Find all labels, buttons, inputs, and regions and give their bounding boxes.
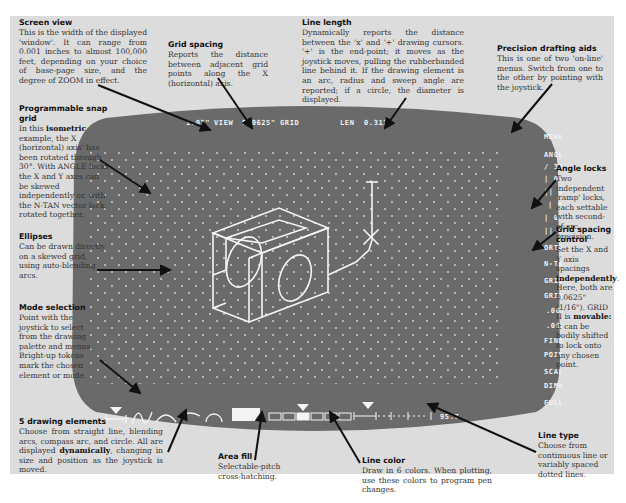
annotation-title: Screen view — [19, 18, 147, 28]
annotation-title: Area fill — [218, 452, 284, 462]
annotation-line-color: Line color Draw in 6 colors. When plotti… — [362, 456, 492, 495]
annotation-title: Grid spacing — [168, 40, 268, 50]
annotation-body: Draw in 6 colors. When plotting, use the… — [362, 466, 492, 495]
annotation-screen-view: Screen view This is the width of the dis… — [19, 18, 147, 86]
annotation-title: Grid spacing control — [556, 225, 614, 245]
annotation-body: Can be drawn directly on a skewed grid, … — [19, 242, 105, 280]
annotation-title: Line type — [538, 431, 608, 441]
annotation-body: Reports the distance between adjacent gr… — [168, 50, 268, 88]
view-width-readout: 1.03" — [186, 119, 210, 127]
annotation-snap-grid: Programmable snap grid In this isometric… — [19, 104, 109, 220]
annotation-area-fill: Area fill Selectable-pitch cross-hatchin… — [218, 452, 284, 481]
menu-item-angle[interactable]: ANGLE — [544, 151, 562, 159]
annotation-body: This is the width of the displayed 'wind… — [19, 28, 147, 86]
line-length-readout: 0.313" — [364, 119, 393, 127]
annotation-drawing-elements: 5 drawing elements Choose from straight … — [19, 417, 163, 475]
annotation-title: Line color — [362, 456, 492, 466]
crt-screen: 1.03" VIEW 0.0625" GRID LEN 0.313" MENU … — [66, 100, 562, 440]
screen-canvas: 1.03" VIEW 0.0625" GRID LEN 0.313" MENU … — [66, 100, 562, 440]
view-label: VIEW — [214, 119, 233, 127]
annotation-body: In this isometric example, the X (horizo… — [19, 124, 109, 220]
annotation-title: Line length — [302, 18, 464, 28]
annotation-title: 5 drawing elements — [19, 417, 163, 427]
annotation-body: This is one of two 'on-line' menus. Swit… — [497, 54, 603, 92]
annotation-title: Programmable snap grid — [19, 104, 109, 124]
annotation-body: Choose from continuous line or variably … — [538, 441, 608, 479]
annotation-grid-spacing-control: Grid spacing control Set the X and Y axi… — [556, 225, 614, 370]
annotation-ellipses: Ellipses Can be drawn directly on a skew… — [19, 232, 105, 280]
annotation-precision-aids: Precision drafting aids This is one of t… — [497, 44, 603, 92]
annotation-line-length: Line length Dynamically reports the dist… — [302, 18, 464, 105]
area-fill-tool[interactable] — [232, 408, 260, 421]
annotation-title: Mode selection — [19, 303, 95, 313]
grid-spacing-readout: 0.0625" — [242, 119, 276, 127]
annotation-title: Ellipses — [19, 232, 105, 242]
line-type-value: 95.7 — [440, 413, 459, 421]
annotation-title: Angle locks — [556, 164, 614, 174]
annotation-body: Selectable-pitch cross-hatching. — [218, 462, 284, 481]
menu-item-dimn[interactable]: DIMN — [544, 382, 562, 390]
annotation-grid-spacing: Grid spacing Reports the distance betwee… — [168, 40, 268, 88]
len-label: LEN — [340, 119, 354, 127]
annotation-body: Choose from straight line, blending arcs… — [19, 427, 163, 475]
annotation-body: Set the X and Y axis spacings independen… — [556, 245, 614, 370]
grid-label: GRID — [280, 119, 299, 127]
annotation-body: Dynamically reports the distance between… — [302, 28, 464, 105]
annotation-title: Precision drafting aids — [497, 44, 603, 54]
menu-item-menu[interactable]: MENU — [544, 133, 562, 141]
annotation-line-type: Line type Choose from continuous line or… — [538, 431, 608, 479]
annotation-mode-selection: Mode selection Point with the joystick t… — [19, 303, 95, 380]
annotation-body: Point with the joystick to select from t… — [19, 313, 95, 380]
menu-item-full[interactable]: FULL — [544, 399, 562, 407]
